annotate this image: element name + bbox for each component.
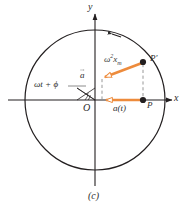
y-axis-label: y: [88, 2, 92, 12]
acceleration-magnitude-label: ω2xm: [104, 53, 122, 66]
phase-angle-label: ωt + ϕ: [34, 80, 58, 89]
acceleration-projection-label: a(t): [113, 104, 126, 113]
point-p-marker: [140, 97, 146, 103]
vector-overbar-arrow-icon: [80, 68, 85, 72]
point-p-prime-label: P′: [150, 54, 157, 63]
origin-label: O: [83, 103, 90, 113]
point-p-prime-marker: [140, 59, 146, 65]
figure-container: y x O P′ P ω2xm a(t) ωt + ϕ a (c): [0, 0, 187, 214]
x-axis-label: x: [174, 93, 178, 103]
point-p-label: P: [147, 101, 153, 110]
figure-caption: (c): [88, 191, 99, 201]
phasor-diagram: [0, 0, 187, 214]
acceleration-vector-label: a: [80, 68, 85, 80]
amplitude-subscript: m: [117, 60, 121, 66]
phase-angle-marker: [77, 88, 95, 100]
